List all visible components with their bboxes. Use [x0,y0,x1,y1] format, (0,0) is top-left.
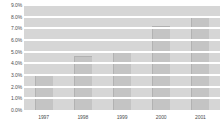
y-axis-tick-label: 4.0% [11,61,22,66]
gridline [24,5,220,6]
y-axis: 0.0%1.0%2.0%3.0%4.0%5.0%6.0%7.0%8.0%9.0% [0,0,24,110]
gridline [24,39,220,41]
y-axis-tick-label: 9.0% [11,3,22,8]
y-axis-tick-label: 1.0% [11,96,22,101]
x-axis-line [24,110,220,111]
x-axis-tick-label: 2000 [156,114,167,120]
x-axis: 19971998199920002001 [24,112,220,126]
x-axis-tick-label: 1998 [77,114,88,120]
gridline [24,16,220,18]
gridline [24,51,220,53]
plot-area [24,5,220,110]
gridline [24,74,220,76]
y-axis-tick-label: 6.0% [11,38,22,43]
bar [74,56,92,110]
gridline [24,86,220,88]
gridline [24,62,220,64]
x-axis-tick-label: 2001 [195,114,206,120]
gridline [24,27,220,29]
bar-chart: 0.0%1.0%2.0%3.0%4.0%5.0%6.0%7.0%8.0%9.0%… [0,0,222,136]
y-axis-tick-label: 7.0% [11,26,22,31]
y-axis-tick-label: 2.0% [11,84,22,89]
x-axis-tick-label: 1999 [117,114,128,120]
y-axis-tick-label: 5.0% [11,49,22,54]
bars-layer [24,5,220,110]
gridline [24,97,220,99]
x-axis-tick-label: 1997 [38,114,49,120]
y-axis-tick-label: 0.0% [11,108,22,113]
bar [35,75,53,110]
y-axis-tick-label: 8.0% [11,14,22,19]
y-axis-tick-label: 3.0% [11,73,22,78]
bar [113,51,131,111]
